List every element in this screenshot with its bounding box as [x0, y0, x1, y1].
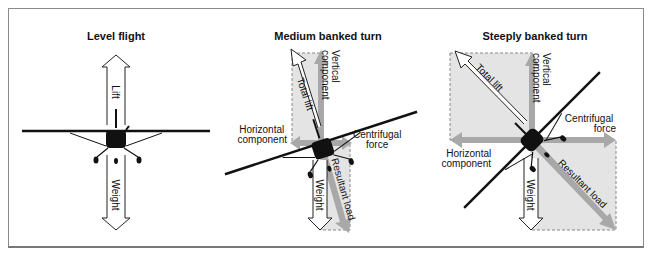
horizontal-component-label: Horizontal component: [238, 124, 288, 145]
vertical-component-label: Vertical component: [531, 53, 552, 103]
weight-label: Weight: [314, 180, 325, 211]
panel-medium-banked-turn: Medium banked turn Total lift Weight: [217, 30, 426, 233]
panel-title: Level flight: [87, 30, 145, 42]
panel-level-flight: Level flight Lift Weight: [22, 30, 210, 230]
centrifugal-force-label: Centrifugal force: [353, 129, 404, 150]
panel-steeply-banked-turn: Steeply banked turn Total lift Weight: [442, 30, 618, 230]
lift-label: Lift: [110, 85, 121, 99]
centrifugal-force-label: Centrifugal force: [565, 113, 617, 134]
forces-diagram: Level flight Lift Weight Medium banked t…: [0, 0, 652, 260]
horizontal-component-label: Horizontal component: [442, 148, 494, 169]
weight-label: Weight: [110, 180, 121, 211]
weight-label: Weight: [525, 180, 536, 211]
panel-title: Steeply banked turn: [482, 30, 587, 42]
vertical-component-label: Vertical component: [320, 50, 341, 100]
panel-title: Medium banked turn: [274, 30, 382, 42]
